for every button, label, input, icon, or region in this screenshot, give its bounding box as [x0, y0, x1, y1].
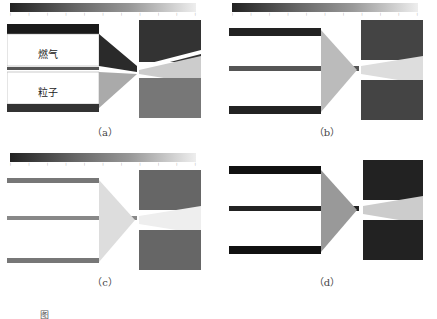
colorbar-tick: |	[10, 162, 11, 168]
nozzle-spray	[321, 30, 357, 112]
panel-label-a: （a）	[0, 124, 210, 139]
colorbar-tick: |	[343, 12, 344, 18]
lower-field	[361, 80, 423, 120]
colorbar-tick: |	[47, 162, 48, 168]
panel-label-d: （d）	[222, 274, 432, 289]
colorbar-tick: |	[176, 12, 177, 18]
colorbar-a	[10, 3, 196, 12]
colorbar-tick: |	[84, 12, 85, 18]
colorbar-tick: |	[158, 162, 159, 168]
upper-field	[361, 20, 423, 60]
outlet-jet	[361, 56, 423, 84]
upper-stream	[7, 178, 99, 183]
colorbar-a-ticks: |||||||||||	[10, 12, 196, 18]
colorbar-tick: |	[380, 12, 381, 18]
colorbar-b-ticks: |||||||||||	[232, 12, 418, 18]
colorbar-tick: |	[250, 12, 251, 18]
colorbar-tick: |	[65, 12, 66, 18]
outlet-lower-field	[139, 78, 201, 118]
colorbar-tick: |	[269, 12, 270, 18]
panel-d: （d）	[222, 150, 432, 290]
colorbar-tick: |	[139, 12, 140, 18]
gas-inlet-wall	[7, 24, 99, 34]
lower-stream	[7, 258, 99, 263]
colorbar-b	[232, 3, 418, 12]
lower-stream	[229, 246, 321, 254]
colorbar-tick: |	[65, 162, 66, 168]
colorbar-tick: |	[195, 162, 196, 168]
nozzle-spray	[99, 180, 135, 262]
colorbar-tick: |	[417, 12, 418, 18]
figure-caption: 图	[40, 308, 400, 319]
colorbar-tick: |	[84, 162, 85, 168]
plot-a	[7, 20, 203, 120]
colorbar-tick: |	[232, 12, 233, 18]
lower-stream	[229, 106, 321, 114]
colorbar-tick: |	[121, 12, 122, 18]
panel-b: ||||||||||| （b）	[222, 0, 432, 140]
particle-wall	[7, 104, 99, 112]
colorbar-tick: |	[398, 12, 399, 18]
colorbar-tick: |	[102, 162, 103, 168]
panel-c: ||||||||||| （c）	[0, 150, 210, 290]
particle-spray	[99, 72, 137, 108]
colorbar-tick: |	[195, 12, 196, 18]
upper-field	[363, 160, 423, 200]
lower-field	[139, 230, 201, 270]
plot-b	[229, 20, 425, 120]
colorbar-tick: |	[47, 12, 48, 18]
converging-flow	[99, 34, 137, 72]
panel-a: ||||||||||| 燃气 粒子 （a）	[0, 0, 210, 140]
upper-stream	[229, 166, 321, 174]
colorbar-tick: |	[121, 162, 122, 168]
colorbar-tick: |	[158, 12, 159, 18]
label-particles: 粒子	[38, 84, 58, 99]
colorbar-tick: |	[10, 12, 11, 18]
colorbar-c-ticks: |||||||||||	[10, 162, 196, 168]
lower-field	[363, 220, 423, 260]
colorbar-tick: |	[28, 162, 29, 168]
panel-label-b: （b）	[222, 124, 432, 139]
colorbar-tick: |	[176, 162, 177, 168]
colorbar-tick: |	[28, 12, 29, 18]
colorbar-tick: |	[139, 162, 140, 168]
colorbar-tick: |	[287, 12, 288, 18]
upper-stream	[229, 28, 321, 36]
panel-label-c: （c）	[0, 274, 210, 289]
outlet-jet	[363, 196, 423, 224]
label-gas: 燃气	[38, 46, 58, 61]
nozzle-spray	[321, 170, 357, 252]
outlet-jet	[139, 206, 201, 234]
colorbar-tick: |	[324, 12, 325, 18]
particle-inlet	[7, 67, 99, 70]
plot-c	[7, 170, 203, 270]
colorbar-c	[10, 153, 196, 162]
colorbar-tick: |	[306, 12, 307, 18]
plot-d	[229, 150, 425, 270]
colorbar-tick: |	[102, 12, 103, 18]
colorbar-tick: |	[361, 12, 362, 18]
upper-field	[139, 170, 201, 210]
